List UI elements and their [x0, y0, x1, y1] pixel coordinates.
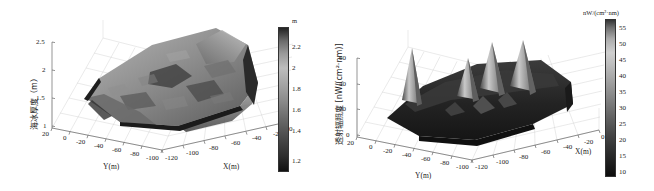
- right-surface-mesh: [387, 40, 573, 146]
- right-colorbar-tick-7: 20: [619, 137, 626, 144]
- right-ztick-3: 0: [346, 132, 350, 139]
- right-xtick-0: -120: [475, 164, 488, 171]
- left-xtick-1: -100: [186, 150, 199, 157]
- right-xtick-2: -80: [519, 154, 528, 161]
- right-xtick-5: -20: [584, 139, 593, 146]
- right-ytick-3: -40: [402, 152, 411, 159]
- left-ztick-3: 1: [43, 123, 47, 130]
- right-ytick-5: -80: [440, 160, 449, 167]
- left-xtick-2: -80: [209, 145, 218, 152]
- left-zaxis-title: 海冰厚度（m）: [30, 74, 39, 130]
- left-ytick-6: -100: [146, 155, 159, 162]
- right-colorbar-tick-4: 35: [619, 89, 626, 96]
- right-ztick-2: 20: [339, 106, 346, 113]
- left-colorbar-tick-2: 1.8: [292, 86, 301, 93]
- left-ytick-3: -40: [94, 143, 103, 150]
- left-xtick-3: -60: [231, 140, 240, 147]
- right-colorbar[interactable]: [605, 19, 616, 177]
- right-surface-panel: 透射辐照度 [nW/(cm²·nm)]: [327, 0, 654, 191]
- right-colorbar-tick-3: 40: [619, 73, 626, 80]
- right-ztick-0: 60: [339, 55, 346, 62]
- right-xtick-4: -40: [563, 144, 572, 151]
- right-xtick-6: 0: [601, 134, 605, 141]
- left-xtick-0: -120: [165, 155, 178, 162]
- left-colorbar[interactable]: [278, 27, 289, 172]
- left-yaxis-title: Y(m): [103, 163, 119, 171]
- left-colorbar-tick-3: 1.6: [292, 107, 301, 114]
- left-surface-mesh: [84, 28, 258, 132]
- right-colorbar-tick-9: 10: [619, 169, 626, 176]
- right-ytick-0: 20: [347, 140, 354, 147]
- left-colorbar-tick-4: 1.4: [292, 128, 301, 135]
- right-colorbar-tick-0: 55: [619, 25, 626, 32]
- right-ytick-2: -20: [383, 148, 392, 155]
- left-ztick-2: 1.5: [36, 95, 45, 102]
- left-ytick-0: 20: [42, 131, 49, 138]
- left-xaxis-title: X(m): [223, 163, 239, 171]
- left-ytick-1: 0: [63, 135, 67, 142]
- left-ytick-4: -60: [112, 147, 121, 154]
- right-yaxis-title: Y(m): [415, 172, 431, 180]
- right-xtick-3: -60: [541, 149, 550, 156]
- right-colorbar-tick-8: 15: [619, 153, 626, 160]
- figure-canvas: 海冰厚度（m）: [0, 0, 654, 191]
- right-xaxis-title: X(m): [575, 148, 591, 156]
- right-colorbar-tick-2: 45: [619, 57, 626, 64]
- right-ytick-6: -100: [456, 164, 469, 171]
- right-xtick-1: -100: [496, 159, 509, 166]
- left-ztick-0: 2.5: [36, 39, 45, 46]
- left-xtick-4: -40: [252, 135, 261, 142]
- left-ytick-2: -20: [76, 139, 85, 146]
- right-colorbar-unit: nW/(cm²·nm): [583, 9, 619, 16]
- left-ztick-1: 2: [42, 67, 46, 74]
- left-ytick-5: -80: [130, 151, 139, 158]
- right-colorbar-tick-6: 25: [619, 121, 626, 128]
- right-colorbar-tick-1: 50: [619, 41, 626, 48]
- left-colorbar-tick-0: 2.2: [292, 44, 301, 51]
- right-colorbar-tick-5: 30: [619, 105, 626, 112]
- left-surface-panel: 海冰厚度（m）: [0, 0, 327, 191]
- left-colorbar-tick-5: 1.2: [292, 158, 301, 165]
- right-ytick-1: 0: [369, 144, 373, 151]
- right-ztick-1: 40: [339, 81, 346, 88]
- left-colorbar-unit: m: [292, 17, 297, 24]
- right-ytick-4: -60: [421, 156, 430, 163]
- left-colorbar-tick-1: 2: [292, 65, 296, 72]
